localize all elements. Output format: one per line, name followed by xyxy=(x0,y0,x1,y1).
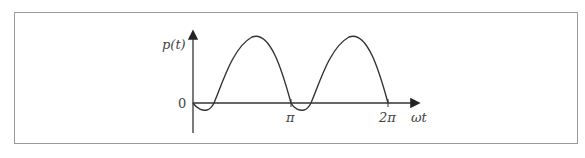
x-axis-label: ωt xyxy=(411,111,427,124)
y-axis-label: p(t) xyxy=(162,38,186,51)
power-waveform-plot xyxy=(0,0,585,158)
pi-label: π xyxy=(286,111,295,124)
origin-label: 0 xyxy=(178,97,186,110)
power-curve xyxy=(193,36,388,110)
two-pi-label: 2π xyxy=(379,111,396,124)
